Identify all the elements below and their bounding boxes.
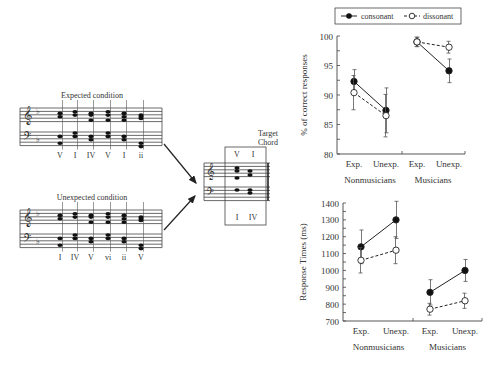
treble-clef-icon: 𝄞 xyxy=(206,163,215,180)
filled-circle-icon xyxy=(351,78,357,84)
open-circle-icon xyxy=(409,13,415,19)
x-tick-label: Unexp. xyxy=(452,326,478,336)
legend: consonantdissonant xyxy=(335,8,461,24)
charts-panel: consonantdissonant80859095100% of correc… xyxy=(298,8,482,352)
target-label: Chord xyxy=(258,138,278,147)
unexpected-condition-score: Unexpected condition𝄞𝄢♭♭IIVVviiiV xyxy=(20,193,162,262)
series-dissonant xyxy=(351,37,452,137)
roman-numeral: I xyxy=(252,150,255,159)
open-circle-icon xyxy=(351,89,357,95)
open-circle-icon xyxy=(383,112,389,118)
x-tick-label: Exp. xyxy=(346,159,363,169)
bass-clef-icon: 𝄢 xyxy=(23,130,31,145)
arrows xyxy=(164,144,196,230)
bass-clef-icon: 𝄢 xyxy=(206,186,214,200)
x-tick-label: Unexp. xyxy=(383,326,409,336)
flat-icon: ♭ xyxy=(36,135,40,144)
legend-consonant: consonant xyxy=(361,12,394,21)
y-tick-label: 1100 xyxy=(321,249,339,259)
roman-numeral: I xyxy=(59,253,62,262)
x-tick-label: Exp. xyxy=(409,159,426,169)
y-tick-label: 800 xyxy=(326,300,340,310)
open-circle-icon xyxy=(427,306,433,312)
y-tick-label: 80 xyxy=(324,150,334,160)
target-box xyxy=(225,147,266,225)
x-tick-label: Exp. xyxy=(353,326,370,336)
filled-circle-icon xyxy=(346,13,352,19)
y-tick-label: 1200 xyxy=(321,232,340,242)
filled-circle-icon xyxy=(358,244,364,250)
filled-circle-icon xyxy=(446,68,452,74)
roman-numeral: I xyxy=(74,151,77,160)
series-consonant xyxy=(351,37,452,133)
filled-circle-icon xyxy=(393,217,399,223)
group-label: Nonmusicians xyxy=(353,342,405,352)
x-tick-label: Exp. xyxy=(422,326,439,336)
roman-numeral: I xyxy=(236,213,239,222)
arrow-icon xyxy=(164,144,196,183)
open-circle-icon xyxy=(358,257,364,263)
series-dissonant xyxy=(358,237,468,315)
roman-numeral: IV xyxy=(71,253,80,262)
filled-circle-icon xyxy=(427,289,433,295)
treble-clef-icon: 𝄞 xyxy=(23,208,32,227)
roman-numeral: V xyxy=(138,253,144,262)
target-label: Target xyxy=(258,129,279,138)
roman-numeral: IV xyxy=(87,151,96,160)
open-circle-icon xyxy=(446,44,452,50)
treble-clef-icon: 𝄞 xyxy=(23,106,32,125)
flat-icon: ♭ xyxy=(36,209,40,218)
musical-score-panel: Expected condition𝄞𝄢♭♭VIIVVIiiUnexpected… xyxy=(20,91,279,262)
open-circle-icon xyxy=(393,247,399,253)
response-time-chart: 70080090010001100120013001400Response Ti… xyxy=(298,199,482,353)
filled-circle-icon xyxy=(462,267,468,273)
score-title: Expected condition xyxy=(61,91,123,100)
arrow-icon xyxy=(164,196,195,230)
y-tick-label: 900 xyxy=(326,283,340,293)
x-tick-label: Unexp. xyxy=(373,159,399,169)
open-circle-icon xyxy=(414,39,420,45)
y-axis-label: Response Times (ms) xyxy=(298,223,308,301)
group-label: Musicians xyxy=(415,175,452,185)
y-tick-label: 700 xyxy=(326,317,340,327)
y-tick-label: 100 xyxy=(320,32,334,42)
y-tick-label: 1300 xyxy=(321,215,340,225)
y-tick-label: 1000 xyxy=(321,266,340,276)
legend-dissonant: dissonant xyxy=(423,12,454,21)
x-tick-label: Unexp. xyxy=(436,159,462,169)
roman-numeral: ii xyxy=(139,151,144,160)
accuracy-chart: 80859095100% of correct responsesExp.Une… xyxy=(299,32,465,186)
open-circle-icon xyxy=(462,298,468,304)
roman-numeral: V xyxy=(105,151,111,160)
roman-numeral: vi xyxy=(105,253,112,262)
y-tick-label: 85 xyxy=(324,120,334,130)
score-title: Unexpected condition xyxy=(57,193,127,202)
expected-condition-score: Expected condition𝄞𝄢♭♭VIIVVIii xyxy=(20,91,162,160)
y-axis-label: % of correct responses xyxy=(299,54,309,136)
series-consonant xyxy=(358,201,468,305)
roman-numeral: V xyxy=(88,253,94,262)
group-label: Musicians xyxy=(429,342,466,352)
roman-numeral: ii xyxy=(122,253,127,262)
roman-numeral: V xyxy=(234,150,240,159)
bass-clef-icon: 𝄢 xyxy=(23,232,31,247)
y-tick-label: 90 xyxy=(324,91,334,101)
y-tick-label: 1400 xyxy=(321,199,340,209)
roman-numeral: V xyxy=(57,151,63,160)
group-label: Nonmusicians xyxy=(344,175,396,185)
roman-numeral: I xyxy=(123,151,126,160)
target-chord-score: TargetChord𝄞𝄢VIIIV xyxy=(204,129,279,225)
flat-icon: ♭ xyxy=(36,107,40,116)
figure-canvas: Expected condition𝄞𝄢♭♭VIIVVIiiUnexpected… xyxy=(0,0,499,367)
roman-numeral: IV xyxy=(249,213,258,222)
flat-icon: ♭ xyxy=(36,237,40,246)
y-tick-label: 95 xyxy=(324,61,334,71)
